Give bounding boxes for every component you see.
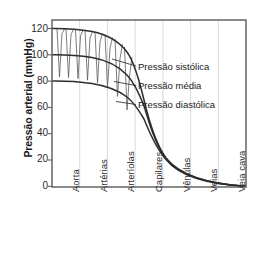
blood-pressure-chart: Pressão arterial (mmHg) 120 100 80 60 40… — [0, 0, 260, 265]
x-tick-label-veias: Veias — [208, 120, 219, 192]
x-tick-label-venulas: Vênulas — [181, 120, 192, 192]
x-tick-label-arteriolas: Arteríolas — [125, 120, 136, 192]
x-tick-label-veia-cava: Veia cava — [236, 120, 247, 192]
x-tick-label-aorta: Aorta — [70, 120, 81, 192]
x-tick-label-arterias: Artérias — [98, 120, 109, 192]
x-axis-ticks: Aorta Artérias Arteríolas Capilares Vênu… — [0, 0, 260, 265]
x-tick-label-capilares: Capilares — [153, 120, 164, 192]
